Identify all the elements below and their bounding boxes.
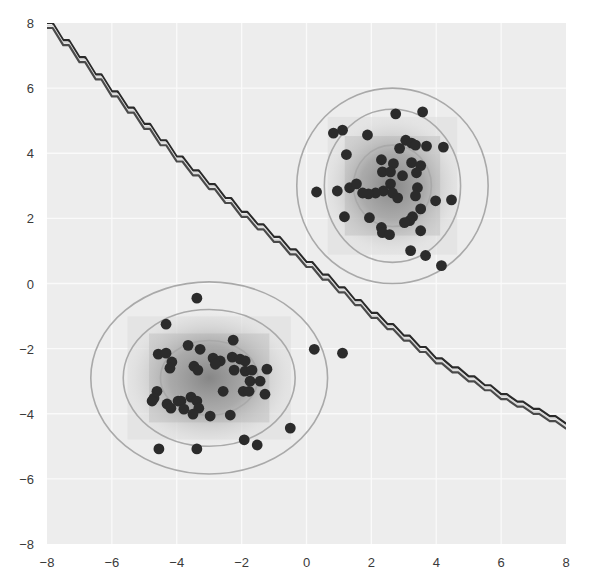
data-point	[436, 260, 447, 271]
data-point	[255, 376, 266, 387]
data-point	[362, 130, 373, 141]
x-axis-tick-labels: −8−6−4−202468	[40, 555, 570, 570]
x-tick-label: 4	[433, 555, 440, 570]
data-point	[192, 365, 203, 376]
y-tick-label: −2	[19, 342, 34, 357]
x-tick-label: −2	[234, 555, 249, 570]
data-point	[385, 166, 396, 177]
data-point	[178, 404, 189, 415]
density-gradient	[120, 306, 298, 450]
data-point	[239, 434, 250, 445]
data-point	[410, 140, 421, 151]
data-point	[165, 363, 176, 374]
y-tick-label: −6	[19, 472, 34, 487]
y-tick-label: −4	[19, 407, 34, 422]
data-point	[405, 245, 416, 256]
data-point	[191, 293, 202, 304]
y-tick-label: 4	[27, 146, 34, 161]
classification-chart: −8−6−4−202468 −8−6−4−202468	[0, 0, 590, 588]
data-point	[161, 348, 172, 359]
data-point	[218, 386, 229, 397]
data-point	[410, 191, 421, 202]
data-point	[357, 188, 368, 199]
data-point	[195, 344, 206, 355]
data-point	[225, 410, 236, 421]
data-point	[397, 170, 408, 181]
data-point	[154, 444, 165, 455]
data-point	[341, 149, 352, 160]
data-point	[364, 212, 375, 223]
data-point	[244, 386, 255, 397]
data-point	[390, 108, 401, 119]
x-tick-label: −8	[40, 555, 55, 570]
data-point	[420, 250, 431, 261]
data-point	[247, 365, 258, 376]
data-point	[339, 211, 350, 222]
data-point	[337, 348, 348, 359]
data-point	[332, 186, 343, 197]
y-tick-label: 8	[27, 16, 34, 31]
data-point	[245, 376, 256, 387]
x-tick-label: −6	[104, 555, 119, 570]
data-point	[252, 440, 263, 451]
y-axis-tick-labels: −8−6−4−202468	[19, 16, 34, 552]
data-point	[415, 204, 426, 215]
data-point	[311, 187, 322, 198]
data-point	[421, 141, 432, 152]
y-tick-label: 0	[27, 277, 34, 292]
data-point	[411, 167, 422, 178]
data-point	[262, 364, 273, 375]
data-point	[351, 178, 362, 189]
data-point	[394, 143, 405, 154]
data-point	[210, 359, 221, 370]
data-point	[430, 195, 441, 206]
x-tick-label: 2	[368, 555, 375, 570]
data-point	[415, 225, 426, 236]
data-point	[309, 344, 320, 355]
data-point	[188, 409, 199, 420]
data-point	[376, 154, 387, 165]
y-tick-label: −8	[19, 537, 34, 552]
x-tick-label: 0	[303, 555, 310, 570]
data-point	[260, 389, 271, 400]
y-tick-label: 2	[27, 211, 34, 226]
data-point	[399, 217, 410, 228]
data-point	[240, 356, 251, 367]
data-point	[228, 335, 239, 346]
data-point	[183, 340, 194, 351]
y-tick-label: 6	[27, 81, 34, 96]
data-point	[229, 365, 240, 376]
data-point	[161, 319, 172, 330]
data-point	[446, 194, 457, 205]
data-point	[392, 192, 403, 203]
data-point	[417, 106, 428, 117]
x-tick-label: 6	[498, 555, 505, 570]
data-point	[191, 444, 202, 455]
x-tick-label: −4	[169, 555, 184, 570]
data-point	[438, 142, 449, 153]
data-point	[147, 396, 158, 407]
data-point	[285, 423, 296, 434]
data-point	[205, 411, 216, 422]
data-point	[337, 125, 348, 136]
data-point	[384, 229, 395, 240]
x-tick-label: 8	[562, 555, 569, 570]
